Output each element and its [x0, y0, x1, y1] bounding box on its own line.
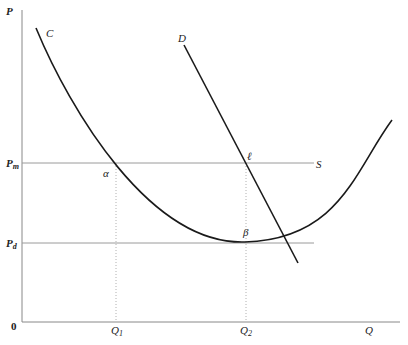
q1-label: Q1 — [111, 324, 123, 338]
curve-d — [184, 45, 298, 263]
svg-text:Pd: Pd — [6, 237, 18, 251]
svg-text:Pm: Pm — [6, 157, 19, 171]
curve-c — [36, 28, 392, 242]
q2-label: Q2 — [240, 324, 252, 338]
point-ell-label: ℓ — [247, 150, 252, 162]
economics-diagram: P Q 0 C D S Pm Pd Q1 Q2 α β ℓ — [0, 0, 408, 345]
origin-label: 0 — [11, 320, 17, 332]
x-axis-label: Q — [365, 324, 373, 336]
curve-c-label: C — [46, 27, 54, 39]
pm-label: Pm — [6, 157, 19, 171]
curve-d-label: D — [177, 32, 186, 44]
y-axis-label: P — [6, 5, 13, 17]
pd-label: Pd — [6, 237, 18, 251]
point-alpha-label: α — [103, 167, 109, 179]
point-beta-label: β — [242, 226, 249, 238]
curve-s-label: S — [316, 158, 322, 170]
svg-text:Q2: Q2 — [240, 324, 252, 338]
svg-text:Q1: Q1 — [111, 324, 123, 338]
